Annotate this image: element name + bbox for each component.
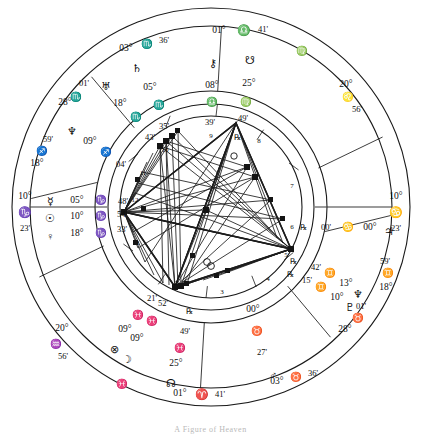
cusp7-degree: 18° <box>379 283 392 293</box>
pisces-band-icon: ♓ <box>116 380 128 390</box>
neptune-degree: 09° <box>83 137 96 147</box>
asc-minute: 23' <box>20 224 30 233</box>
venus-degree: 18° <box>70 229 83 239</box>
cusp12-degree: 28° <box>58 98 71 108</box>
venus-sign-icon: ♑ <box>95 229 107 239</box>
north-node-sign-icon: ♓ <box>174 344 186 354</box>
cusp12-sign-icon: ♏ <box>70 93 82 103</box>
house-number-8: 8 <box>257 138 261 145</box>
house-number-6: 6 <box>290 224 294 231</box>
mc-minute: 41' <box>258 25 268 34</box>
cusp9-sign-icon: ♌ <box>342 93 354 103</box>
cusp6-minute: 01' <box>356 302 366 311</box>
ic-minute: 41' <box>215 390 225 399</box>
neptune2-degree: 13° <box>339 279 352 289</box>
pluto-degree: 10° <box>330 293 343 303</box>
mars-icon: ♂ <box>269 370 277 381</box>
mercury-minute: 48' <box>118 197 128 206</box>
uranus-icon: ♅ <box>101 81 111 92</box>
house-number-1: 1 <box>136 240 140 247</box>
pluto-sign-icon: ♊ <box>315 283 327 293</box>
mars-degree: 00° <box>246 305 259 315</box>
part-of-fortune-icon: ⊗ <box>110 344 119 355</box>
mercury-icon: ☿ <box>47 196 54 207</box>
pluto-retrograde-icon: ℞ <box>290 258 297 266</box>
mercury-sign-icon: ♑ <box>95 196 107 206</box>
asc-sign-icon: ♑ <box>18 207 32 218</box>
cusp12-minute: 01' <box>79 79 89 88</box>
saturn-icon: ♄ <box>132 63 142 74</box>
cusp6-sign-icon: ♉ <box>352 314 364 324</box>
house-number-3: 3 <box>220 289 224 296</box>
chiron-degree: 08° <box>205 81 218 91</box>
chiron-minute: 39' <box>205 118 215 127</box>
mars-minute: 27' <box>257 348 267 357</box>
cusp9-minute: 56' <box>352 105 362 114</box>
pluto-minute: 15' <box>302 276 312 285</box>
asc-degree: 10° <box>18 192 31 202</box>
house-number-2: 2 <box>174 280 178 287</box>
neptune2-sign-icon: ♊ <box>324 269 336 279</box>
house-number-10: 10 <box>162 147 169 154</box>
north-node-retrograde-icon: ℞ <box>186 308 193 316</box>
sun-icon: ☉ <box>45 213 55 224</box>
aspect-lines <box>124 123 291 287</box>
house-number-9: 9 <box>209 133 213 140</box>
mc-sign-icon: ♎ <box>237 25 251 36</box>
neptune-minute: 04' <box>116 160 126 169</box>
house-number-5: 5 <box>284 252 288 259</box>
uranus-sign-icon: ♏ <box>130 113 142 123</box>
jupiter-degree: 00° <box>363 223 376 233</box>
cusp3-minute: 56' <box>58 352 68 361</box>
ic-sign-icon: ♈ <box>195 389 209 400</box>
moon-icon: ☽ <box>122 354 132 365</box>
dsc-degree: 10° <box>389 192 402 202</box>
cusp11-sign-icon: ♏ <box>141 40 153 50</box>
cusp1-degree: 18° <box>30 159 43 169</box>
cusp7-minute: 59' <box>380 257 390 266</box>
house-number-12: 12 <box>132 197 139 204</box>
moon-degree: 09° <box>130 334 143 344</box>
neptune-icon: ♆ <box>67 126 77 137</box>
part-of-fortune-sign-icon: ♓ <box>132 311 144 321</box>
sun-sign-icon: ♑ <box>95 212 107 222</box>
cusp1-sign-icon: ♐ <box>36 147 48 157</box>
neptune2-minute: 42' <box>311 263 321 272</box>
saturn-sign-icon: ♏ <box>153 101 165 111</box>
sun-minute: 54' <box>117 210 127 219</box>
pluto-retro-2-icon: ℞ <box>287 271 294 279</box>
sun-degree: 10° <box>70 212 83 222</box>
pluto-icon: ♇ <box>345 302 355 313</box>
south-node-minute: 49' <box>238 114 248 123</box>
cusp3-degree: 20° <box>55 324 68 334</box>
part-of-fortune-minute: 21' <box>147 294 157 303</box>
cusp6-degree: 28° <box>338 325 351 335</box>
cusp7-sign-icon: ♊ <box>382 269 394 279</box>
venus-minute: 33' <box>117 225 127 234</box>
dsc-sign-icon: ♋ <box>389 207 403 218</box>
cusp5-sign-icon: ♉ <box>290 373 302 383</box>
saturn-degree: 05° <box>143 83 156 93</box>
mercury-degree: 05° <box>70 196 83 206</box>
moon-minute: 52' <box>158 299 168 308</box>
mars-sign-icon: ♉ <box>251 327 263 337</box>
cusp3-sign-icon: ♒ <box>50 340 62 350</box>
cusp11-minute: 36' <box>159 36 169 45</box>
house-number-11: 11 <box>140 170 147 177</box>
south-node-sign-icon: ♍ <box>240 98 252 108</box>
chart-caption: A Figure of Heaven <box>0 425 421 434</box>
cusp1-minute: 59' <box>43 135 53 144</box>
house-number-7: 7 <box>290 183 294 190</box>
mc-degree: 01° <box>212 26 225 36</box>
venus-icon: ♀ <box>46 231 54 242</box>
south-node-degree: 25° <box>242 79 255 89</box>
cusp11-degree: 03° <box>119 44 132 54</box>
uranus-degree: 18° <box>113 99 126 109</box>
north-node-minute: 49' <box>180 327 190 336</box>
north-node-icon: ☊ <box>166 378 176 389</box>
ic-degree: 01° <box>173 389 186 399</box>
saturn-minute: 35' <box>159 122 169 131</box>
jupiter-retrograde-icon: ℞ <box>300 224 307 232</box>
jupiter-sign-icon: ♋ <box>342 223 354 233</box>
cusp9-degree: 20° <box>339 80 352 90</box>
